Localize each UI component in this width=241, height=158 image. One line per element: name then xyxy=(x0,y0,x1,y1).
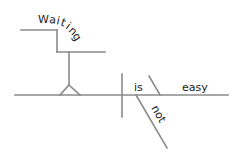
svg-text:W: W xyxy=(38,13,49,26)
sentence-diagram: W a i t i n g is easy not xyxy=(0,0,241,158)
fork-right-line xyxy=(69,85,80,95)
complement-slant-line xyxy=(149,76,160,95)
verb-label: is xyxy=(134,81,143,94)
fork-left-line xyxy=(60,85,69,95)
complement-label: easy xyxy=(182,81,208,94)
gerund-label: W a i t i n g xyxy=(38,13,84,43)
